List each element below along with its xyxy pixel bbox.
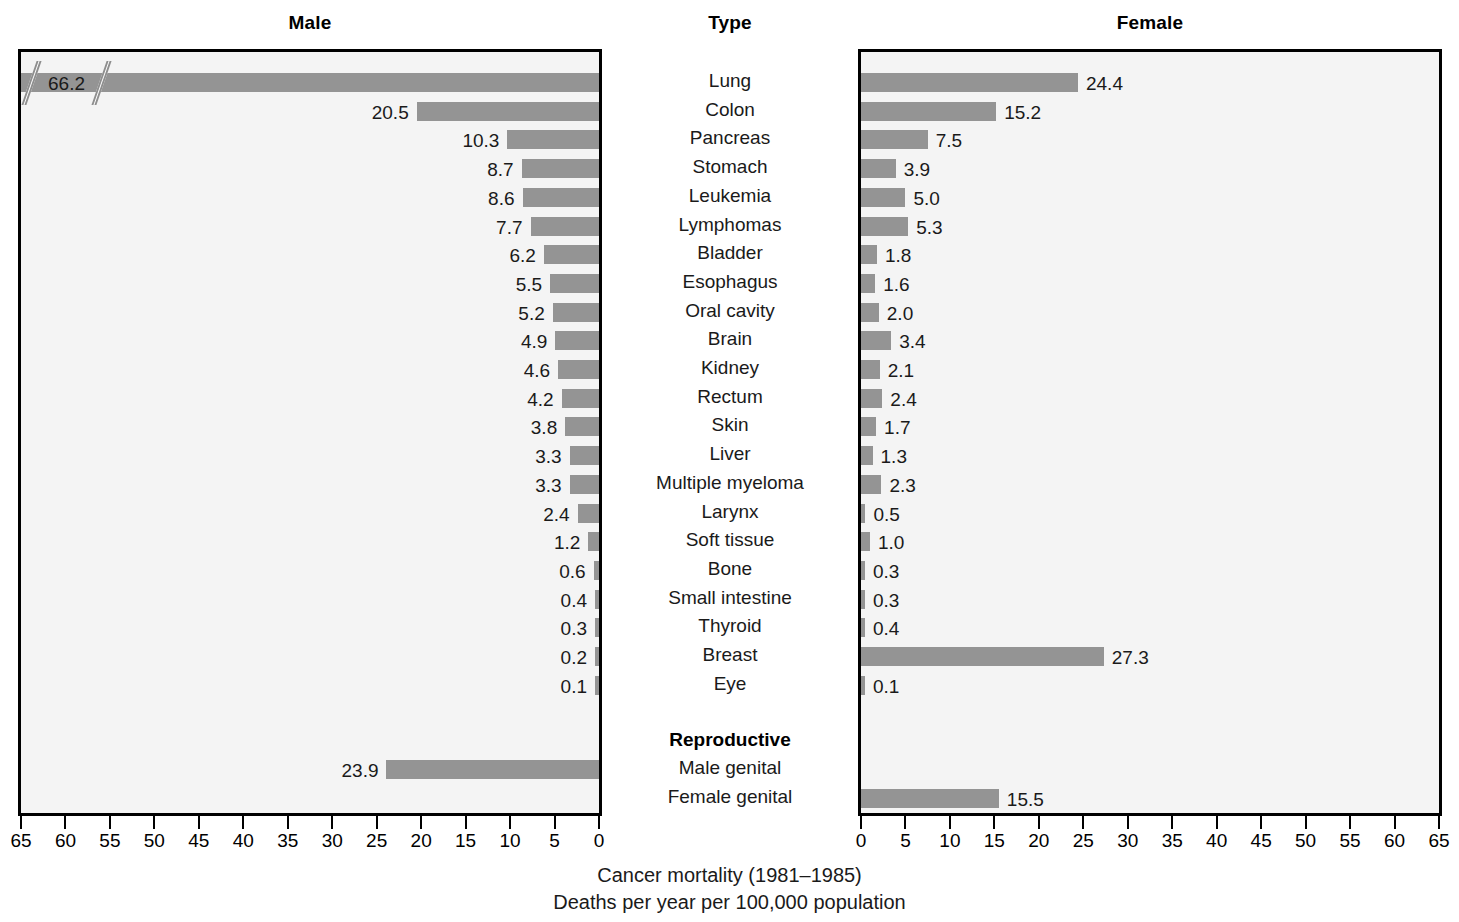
- axis-tick-label-15: 15: [972, 831, 1016, 851]
- bar-male-thyroid: [595, 618, 599, 637]
- column-header-male: Male: [18, 12, 602, 34]
- value-label-female-lymphomas: 5.3: [916, 218, 942, 237]
- type-label-colon: Colon: [610, 100, 850, 119]
- axis-tick-label-65: 65: [1417, 831, 1459, 851]
- bar-female-rectum: [861, 389, 882, 408]
- axis-tick-label-0: 0: [839, 831, 883, 851]
- axis-tick: [331, 816, 333, 829]
- axis-tick-label-40: 40: [1195, 831, 1239, 851]
- value-label-female-lung: 24.4: [1086, 74, 1123, 93]
- value-label-male-breast: 0.2: [561, 648, 587, 667]
- type-label-larynx: Larynx: [610, 502, 850, 521]
- value-label-female-bladder: 1.8: [885, 246, 911, 265]
- type-label-leukemia: Leukemia: [610, 186, 850, 205]
- bar-male-bone: [594, 561, 599, 580]
- value-label-female-bone: 0.3: [873, 562, 899, 581]
- value-label-male-pancreas: 10.3: [462, 131, 499, 150]
- value-label-male-male-genital: 23.9: [342, 761, 379, 780]
- axis-tick-label-55: 55: [88, 831, 132, 851]
- bar-female-liver: [861, 446, 873, 465]
- value-label-male-kidney: 4.6: [524, 361, 550, 380]
- axis-tick: [1127, 816, 1129, 829]
- axis-tick-label-0: 0: [577, 831, 621, 851]
- axis-tick: [949, 816, 951, 829]
- axis-tick: [242, 816, 244, 829]
- type-label-esophagus: Esophagus: [610, 272, 850, 291]
- value-label-male-oral-cavity: 5.2: [518, 304, 544, 323]
- column-header-type: Type: [610, 12, 850, 34]
- bar-male-esophagus: [550, 274, 599, 293]
- male-bars-area: 66.220.510.38.78.67.76.25.55.24.94.64.23…: [21, 52, 599, 813]
- type-label-breast: Breast: [610, 645, 850, 664]
- value-label-female-kidney: 2.1: [888, 361, 914, 380]
- value-label-female-soft-tissue: 1.0: [878, 533, 904, 552]
- type-label-bladder: Bladder: [610, 243, 850, 262]
- axis-tick-label-10: 10: [928, 831, 972, 851]
- type-label-male-genital: Male genital: [610, 758, 850, 777]
- type-label-column: LungColonPancreasStomachLeukemiaLymphoma…: [610, 49, 850, 839]
- caption-line-1: Cancer mortality (1981–1985): [0, 862, 1459, 889]
- value-label-male-esophagus: 5.5: [516, 275, 542, 294]
- value-label-female-larynx: 0.5: [873, 505, 899, 524]
- bar-male-lung: [21, 73, 599, 92]
- axis-tick: [1038, 816, 1040, 829]
- type-label-thyroid: Thyroid: [610, 616, 850, 635]
- value-label-female-pancreas: 7.5: [936, 131, 962, 150]
- value-label-female-stomach: 3.9: [904, 160, 930, 179]
- value-label-male-thyroid: 0.3: [561, 619, 587, 638]
- bar-male-liver: [570, 446, 599, 465]
- bar-female-brain: [861, 331, 891, 350]
- bar-male-eye: [595, 676, 599, 695]
- type-label-multiple-myeloma: Multiple myeloma: [610, 473, 850, 492]
- value-label-male-lung: 66.2: [48, 74, 85, 93]
- type-label-liver: Liver: [610, 444, 850, 463]
- axis-tick-label-50: 50: [1284, 831, 1328, 851]
- column-header-female: Female: [858, 12, 1442, 34]
- value-label-female-rectum: 2.4: [890, 390, 916, 409]
- type-label-skin: Skin: [610, 415, 850, 434]
- axis-tick: [993, 816, 995, 829]
- axis-tick: [904, 816, 906, 829]
- axis-tick: [198, 816, 200, 829]
- bar-female-thyroid: [861, 618, 865, 637]
- value-label-male-multiple-myeloma: 3.3: [535, 476, 561, 495]
- bar-male-male-genital: [386, 760, 599, 779]
- cancer-mortality-chart: Male Type Female 66.220.510.38.78.67.76.…: [0, 0, 1459, 922]
- value-label-male-rectum: 4.2: [527, 390, 553, 409]
- axis-tick-label-60: 60: [1373, 831, 1417, 851]
- bar-female-oral-cavity: [861, 303, 879, 322]
- axis-tick: [376, 816, 378, 829]
- bar-male-multiple-myeloma: [570, 475, 599, 494]
- bar-male-bladder: [544, 245, 599, 264]
- type-label-pancreas: Pancreas: [610, 128, 850, 147]
- bar-female-breast: [861, 647, 1104, 666]
- axis-tick-label-45: 45: [1239, 831, 1283, 851]
- type-label-eye: Eye: [610, 674, 850, 693]
- axis-tick: [1216, 816, 1218, 829]
- value-label-male-bladder: 6.2: [509, 246, 535, 265]
- bar-male-stomach: [522, 159, 599, 178]
- axis-tick-label-30: 30: [1106, 831, 1150, 851]
- axis-tick-label-25: 25: [355, 831, 399, 851]
- male-plot-panel: 66.220.510.38.78.67.76.25.55.24.94.64.23…: [18, 49, 602, 816]
- value-label-female-multiple-myeloma: 2.3: [889, 476, 915, 495]
- axis-tick-label-5: 5: [533, 831, 577, 851]
- value-label-male-soft-tissue: 1.2: [554, 533, 580, 552]
- figure-caption: Cancer mortality (1981–1985) Deaths per …: [0, 862, 1459, 916]
- bar-male-breast: [595, 647, 599, 666]
- axis-tick: [1438, 816, 1440, 829]
- type-label-female-genital: Female genital: [610, 787, 850, 806]
- axis-tick: [554, 816, 556, 829]
- axis-tick: [1394, 816, 1396, 829]
- value-label-male-leukemia: 8.6: [488, 189, 514, 208]
- value-label-female-leukemia: 5.0: [913, 189, 939, 208]
- male-x-axis: 65605550454035302520151050: [18, 816, 602, 862]
- value-label-male-eye: 0.1: [561, 677, 587, 696]
- value-label-female-breast: 27.3: [1112, 648, 1149, 667]
- axis-tick: [1349, 816, 1351, 829]
- value-label-female-oral-cavity: 2.0: [887, 304, 913, 323]
- bar-male-rectum: [562, 389, 599, 408]
- axis-tick-label-35: 35: [266, 831, 310, 851]
- type-label-bone: Bone: [610, 559, 850, 578]
- axis-tick: [420, 816, 422, 829]
